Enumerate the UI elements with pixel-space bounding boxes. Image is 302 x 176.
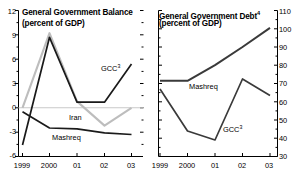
panel-government-debt: General Government Debt4 (percent of GDP… bbox=[151, 0, 302, 176]
right-plot-area bbox=[151, 0, 302, 176]
right-y-major-ticks bbox=[274, 11, 278, 157]
left-mirror-ticks bbox=[140, 11, 144, 145]
left-plot-area bbox=[0, 0, 151, 176]
right-x-ticks bbox=[160, 153, 270, 157]
left-x-ticks bbox=[23, 153, 132, 157]
left-y-major-ticks bbox=[15, 11, 19, 157]
right-series-gcc-line bbox=[160, 79, 270, 140]
right-series-mashreq-line bbox=[160, 28, 270, 81]
right-mirror-ticks bbox=[159, 11, 163, 148]
left-series-mashreq-line bbox=[23, 112, 132, 135]
panel-government-balance: General Government Balance (percent of G… bbox=[0, 0, 151, 176]
chart-figure: General Government Balance (percent of G… bbox=[0, 0, 302, 176]
